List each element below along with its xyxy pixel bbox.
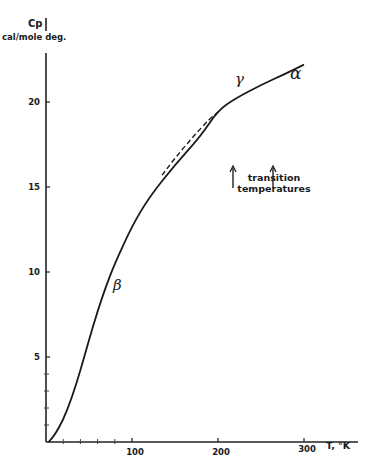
phase-label-alpha: α xyxy=(290,63,301,83)
phase-label-gamma: γ xyxy=(235,70,244,88)
y-axis-ticks xyxy=(44,102,50,425)
y-tick-label-15: 15 xyxy=(20,183,40,192)
cp-solid-curve xyxy=(49,65,304,442)
transition-temperatures-annotation: transition temperatures xyxy=(224,172,324,195)
y-axis-title: Cp xyxy=(28,19,43,29)
y-tick-label-5: 5 xyxy=(20,353,40,362)
x-tick-label-300: 300 xyxy=(292,445,322,454)
phase-label-beta: β xyxy=(113,276,122,294)
y-tick-label-10: 10 xyxy=(20,268,40,277)
x-tick-label-100: 100 xyxy=(120,448,150,457)
y-axis-units: cal/mole deg. xyxy=(2,33,66,42)
y-tick-label-20: 20 xyxy=(20,98,40,107)
heat-capacity-chart xyxy=(0,0,372,467)
transition-text-line2: temperatures xyxy=(224,183,324,194)
x-axis-title: T, °K xyxy=(326,441,350,451)
x-tick-label-200: 200 xyxy=(206,448,236,457)
transition-text-line1: transition xyxy=(224,172,324,183)
x-axis-ticks xyxy=(63,438,304,444)
